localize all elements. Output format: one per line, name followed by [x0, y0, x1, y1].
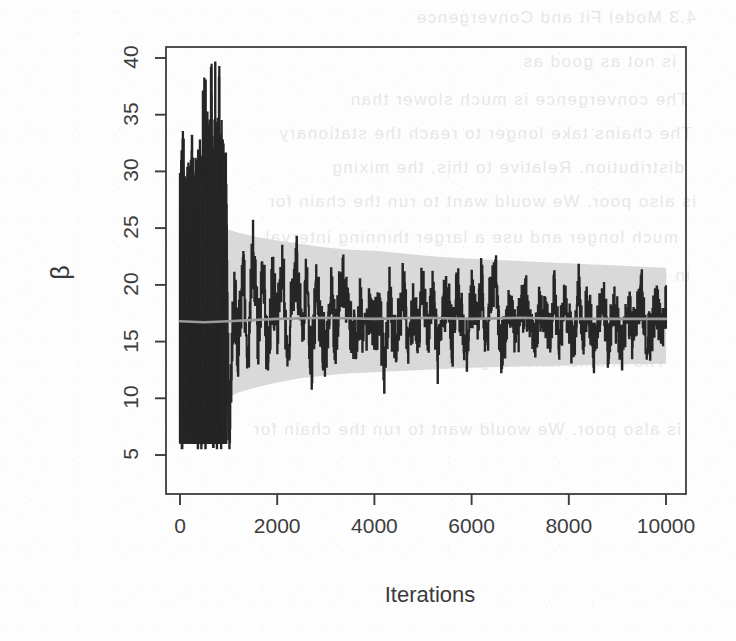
mcmc-trace-figure: 510152025303540 0200040006000800010000 β… — [0, 0, 736, 641]
x-tick-label: 4000 — [324, 514, 424, 538]
burn-in-region — [180, 64, 227, 444]
x-axis-ticks — [180, 494, 666, 505]
x-tick-label: 10000 — [616, 514, 716, 538]
y-axis-ticks — [155, 58, 166, 455]
x-tick-label: 0 — [130, 514, 230, 538]
x-tick-label: 2000 — [227, 514, 327, 538]
beta-trace-line — [180, 63, 666, 449]
plot-canvas — [0, 0, 736, 641]
y-axis-title: β — [46, 253, 75, 293]
y-tick-label: 40 — [119, 17, 143, 97]
x-tick-label: 6000 — [422, 514, 522, 538]
scanned-page: 4.3 Model Fit and Convergence is not as … — [0, 0, 736, 641]
x-axis-title: Iterations — [330, 582, 530, 608]
x-tick-label: 8000 — [519, 514, 619, 538]
